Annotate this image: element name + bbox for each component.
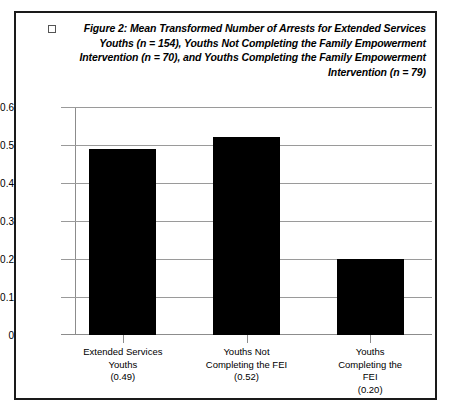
x-axis-tick-mark [370, 335, 371, 343]
gridline [61, 107, 432, 108]
y-axis-tick-label: 0.5 [0, 140, 14, 151]
y-axis-tick-label: 0.1 [0, 292, 14, 303]
figure-frame: Figure 2: Mean Transformed Number of Arr… [14, 11, 437, 400]
x-axis-category-labels: Extended Services Youths (0.49)Youths No… [61, 346, 432, 404]
y-axis-tick-label: 0.4 [0, 178, 14, 189]
x-axis-category-label: Youths Not Completing the FEI (0.52) [185, 346, 309, 384]
y-axis-tick-label: 0.3 [0, 216, 14, 227]
plot-area [61, 107, 432, 335]
figure-caption-text: Figure 2: Mean Transformed Number of Arr… [65, 21, 426, 79]
bar [213, 137, 280, 335]
grid-and-bars [61, 107, 432, 335]
y-axis-tick-labels: 0.60.50.40.30.20.10 [0, 107, 14, 335]
bar [89, 149, 156, 335]
x-axis-category-label: Youths Completing the FEI (0.20) [308, 346, 432, 396]
x-axis-category-label: Extended Services Youths (0.49) [61, 346, 185, 384]
empty-square-bullet-icon [48, 25, 56, 33]
y-axis-tick-label: 0 [8, 330, 14, 341]
x-axis-tick-mark [247, 335, 248, 343]
x-axis-tick-mark [123, 335, 124, 343]
bar [337, 259, 404, 335]
figure-caption: Figure 2: Mean Transformed Number of Arr… [48, 21, 426, 79]
y-axis-tick-label: 0.6 [0, 102, 14, 113]
y-axis-tick-label: 0.2 [0, 254, 14, 265]
